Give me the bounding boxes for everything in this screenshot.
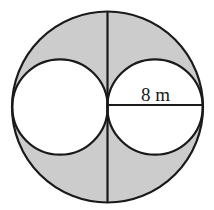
dimension-label: 8 m — [141, 84, 170, 105]
geometry-figure: 8 m — [0, 0, 214, 210]
figure-canvas: 8 m — [0, 0, 214, 210]
